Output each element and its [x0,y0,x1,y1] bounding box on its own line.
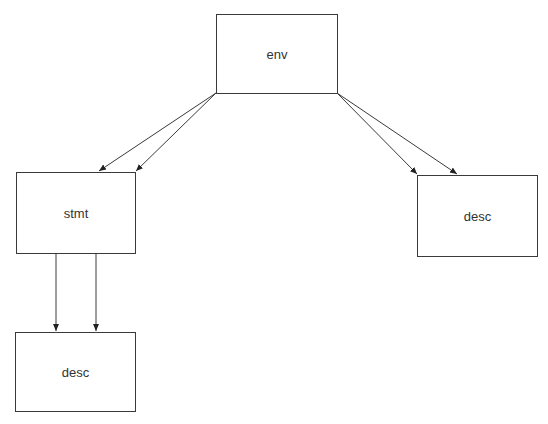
node-env[interactable]: env [216,14,338,94]
node-env-label: env [267,47,288,62]
node-desc-bottom[interactable]: desc [15,332,136,412]
node-desc-bottom-label: desc [62,365,89,380]
edge-env-to-desc-right-2 [337,93,457,174]
diagram-canvas: env stmt desc desc [0,0,548,424]
node-desc-right[interactable]: desc [417,175,538,257]
edge-env-to-stmt-2 [136,93,216,171]
edge-env-to-desc-right-1 [337,93,417,174]
edge-env-to-stmt-1 [99,93,216,171]
node-stmt[interactable]: stmt [16,172,136,254]
node-desc-right-label: desc [464,209,491,224]
node-stmt-label: stmt [64,206,89,221]
